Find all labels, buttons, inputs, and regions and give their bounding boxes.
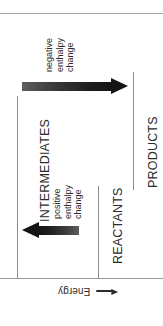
negative-enthalpy-note-line3: change <box>65 38 76 72</box>
energy-direction-arrow-icon <box>96 288 118 295</box>
energy-diagram-figure: PRODUCTS REACTANTS INTERMEDIATES negativ… <box>0 0 163 326</box>
negative-enthalpy-note-line2: enthalpy <box>55 38 66 72</box>
state-label-reactants: REACTANTS <box>111 187 125 264</box>
axis-arrow-shaft <box>96 290 112 292</box>
energy-level-line-intermediates <box>17 96 18 278</box>
energy-level-line-products <box>133 72 134 190</box>
negative-enthalpy-note-line1: negative <box>44 38 55 72</box>
positive-enthalpy-note-line3: change <box>73 185 84 219</box>
state-label-intermediates: INTERMEDIATES <box>38 119 52 222</box>
axis-arrow-head <box>111 289 118 295</box>
positive-enthalpy-note: positive enthalpy change <box>52 185 84 219</box>
arrow-shaft <box>22 82 112 91</box>
positive-enthalpy-arrow-icon <box>22 222 79 239</box>
arrow-head <box>111 78 128 94</box>
positive-enthalpy-note-line2: enthalpy <box>63 185 74 219</box>
energy-level-line-reactants <box>98 186 99 278</box>
positive-enthalpy-note-line1: positive <box>52 185 63 219</box>
energy-axis-caption: Energy <box>58 286 118 297</box>
arrow-head <box>22 222 39 238</box>
negative-enthalpy-note: negative enthalpy change <box>44 38 76 72</box>
top-divider <box>0 13 163 14</box>
state-label-products: PRODUCTS <box>146 116 160 188</box>
energy-axis-line <box>0 278 163 279</box>
negative-enthalpy-arrow-icon <box>22 78 128 95</box>
energy-axis-label: Energy <box>58 286 90 297</box>
arrow-shaft <box>38 226 79 235</box>
